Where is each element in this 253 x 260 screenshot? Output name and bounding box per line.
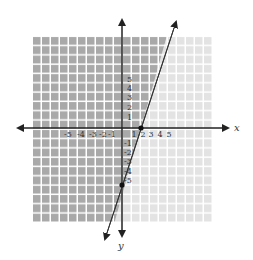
x-tick-label: 3 <box>148 130 153 139</box>
y-tick-label: -3 <box>124 157 132 166</box>
x-tick-label: 5 <box>166 130 171 139</box>
x-axis-label: x <box>234 122 240 133</box>
x-tick-label: -1 <box>108 130 116 139</box>
inequality-graph: -5 -4 -3 -2 -1 1 2 3 4 5 5 4 3 2 1 -1 -2… <box>0 0 253 260</box>
x-tick-label: -3 <box>89 130 97 139</box>
y-tick-label: 1 <box>127 113 132 122</box>
y-axis-label: y <box>117 240 124 251</box>
y-tick-label: 5 <box>127 75 132 84</box>
y-tick-label: 4 <box>127 84 132 93</box>
y-tick-label: -4 <box>124 167 132 176</box>
x-tick-label: -5 <box>64 130 72 139</box>
y-tick-label: -2 <box>124 148 132 157</box>
x-tick-label: 1 <box>131 130 136 139</box>
y-tick-label: 3 <box>127 93 132 102</box>
y-tick-label: -1 <box>124 139 132 148</box>
x-tick-label: -4 <box>77 130 85 139</box>
x-tick-label: 4 <box>157 130 162 139</box>
y-tick-label: 2 <box>127 103 132 112</box>
y-tick-label: -5 <box>124 176 132 185</box>
x-tick-label: -2 <box>99 130 107 139</box>
x-tick-label: 2 <box>140 130 145 139</box>
